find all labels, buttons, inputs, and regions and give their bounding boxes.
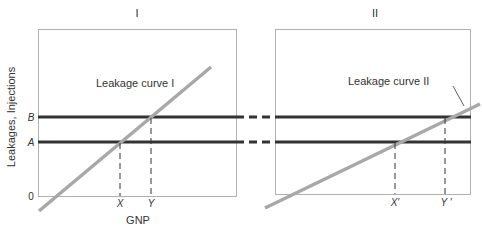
tick-y-prime: Y ' bbox=[440, 197, 452, 208]
tick-y: Y bbox=[148, 198, 156, 209]
y-axis-label: Leakages, Injections bbox=[5, 66, 17, 167]
curve-2-label: Leakage curve II bbox=[348, 75, 429, 87]
x-axis-label: GNP bbox=[126, 214, 150, 226]
tick-0: 0 bbox=[28, 191, 34, 202]
leakage-injection-diagram: I II Leakage curve I Leakage curve II B … bbox=[0, 0, 482, 233]
tick-x-prime: X' bbox=[390, 197, 401, 208]
panel-2-frame bbox=[276, 30, 471, 195]
tick-x: X bbox=[116, 198, 124, 209]
tick-a: A bbox=[27, 137, 35, 148]
tick-b: B bbox=[28, 112, 35, 123]
curve-2-leader bbox=[453, 86, 464, 106]
curve-1-label: Leakage curve I bbox=[96, 77, 174, 89]
panel-1-frame bbox=[39, 30, 237, 197]
leakage-curve-2 bbox=[265, 104, 480, 208]
panel-1-title: I bbox=[135, 7, 138, 19]
panel-2-title: II bbox=[372, 7, 378, 19]
